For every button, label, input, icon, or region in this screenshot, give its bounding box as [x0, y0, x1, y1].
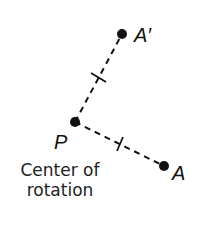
label-a-prime: A′ — [133, 24, 152, 46]
point-p — [70, 117, 80, 127]
point-a — [159, 161, 169, 171]
point-a-prime — [117, 29, 127, 39]
label-p: P — [54, 131, 68, 153]
caption-center-of-rotation: Center of rotation — [8, 160, 112, 200]
congruence-tick-p-a-prime — [91, 73, 106, 82]
label-a: A — [171, 162, 185, 184]
caption-line-1: Center of — [8, 160, 112, 180]
caption-line-2: rotation — [8, 180, 112, 200]
